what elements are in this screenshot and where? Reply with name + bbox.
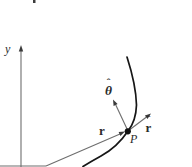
tangential-unit-vector-arrowhead-icon: [113, 100, 118, 106]
theta-hat-letter: θ: [105, 85, 112, 96]
point-p-label: P: [130, 133, 137, 146]
figure-canvas: [0, 0, 192, 167]
cutoff-text-fragment: [33, 0, 36, 3]
position-vector-label: r: [99, 124, 105, 137]
theta-hat-label: ˆ θ: [101, 80, 116, 96]
y-axis-label: y: [5, 43, 10, 56]
polar-coordinates-figure: y r P ˆ θ ˆ r: [0, 0, 192, 167]
tangential-unit-vector-line: [116, 105, 128, 131]
r-hat-label: ˆ r: [142, 117, 155, 133]
r-hat-letter: r: [146, 122, 152, 133]
trajectory-curve: [83, 57, 137, 167]
y-axis-arrowhead-icon: [19, 45, 23, 52]
